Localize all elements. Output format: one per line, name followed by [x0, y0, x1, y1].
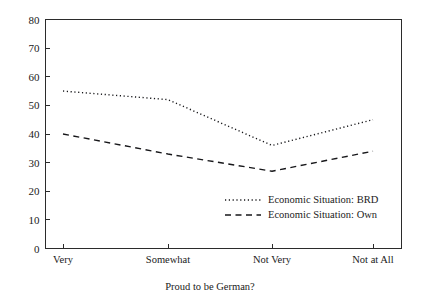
x-category-label: Very — [53, 254, 74, 265]
y-tick-label: 20 — [29, 185, 41, 197]
y-tick-label: 0 — [34, 243, 40, 255]
legend-label-2: Economic Situation: Own — [268, 209, 378, 220]
chart-canvas: 80706050403020100 VerySomewhatNot VeryNo… — [0, 0, 421, 302]
data-series-group — [63, 91, 373, 171]
y-tick-label: 30 — [29, 157, 41, 169]
y-tick-label: 70 — [29, 42, 41, 54]
y-tick-label: 80 — [29, 14, 41, 26]
x-axis: VerySomewhatNot VeryNot at All — [53, 244, 394, 265]
y-tick-label: 40 — [29, 128, 41, 140]
y-axis: 80706050403020100 — [29, 14, 50, 255]
x-category-label: Somewhat — [146, 254, 190, 265]
x-category-label: Not at All — [352, 254, 393, 265]
series-line-1 — [63, 91, 373, 145]
chart-legend: Economic Situation: BRDEconomic Situatio… — [225, 194, 379, 220]
series-line-2 — [63, 134, 373, 171]
x-axis-title: Proud to be German? — [165, 281, 255, 292]
legend-label-1: Economic Situation: BRD — [268, 194, 379, 205]
x-category-label: Not Very — [253, 254, 292, 265]
y-tick-label: 60 — [29, 71, 41, 83]
line-chart: 80706050403020100 VerySomewhatNot VeryNo… — [0, 0, 421, 302]
y-tick-label: 10 — [29, 214, 41, 226]
y-tick-label: 50 — [29, 99, 41, 111]
